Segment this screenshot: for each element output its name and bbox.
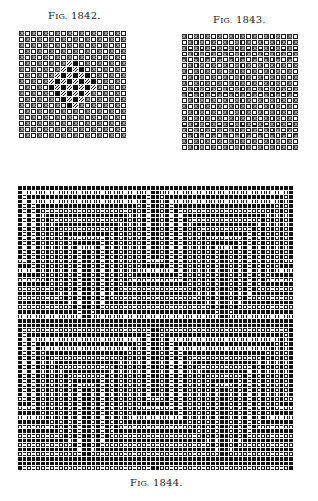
weave-cell bbox=[220, 232, 224, 236]
weave-cell bbox=[31, 127, 36, 132]
weave-cell bbox=[50, 310, 54, 314]
weave-cell bbox=[252, 351, 256, 355]
weave-cell bbox=[243, 448, 247, 452]
weave-cell bbox=[105, 186, 109, 190]
weave-cell bbox=[160, 315, 164, 319]
weave-cell bbox=[264, 92, 269, 97]
weave-cell bbox=[287, 133, 292, 138]
weave-cell bbox=[276, 81, 281, 86]
weave-cell bbox=[87, 411, 91, 415]
weave-cell bbox=[156, 420, 160, 424]
weave-cell bbox=[124, 439, 128, 443]
weave-cell bbox=[87, 416, 91, 420]
weave-cell bbox=[87, 452, 91, 456]
weave-cell bbox=[257, 462, 261, 466]
weave-cell bbox=[92, 434, 96, 438]
weave-cell bbox=[37, 61, 42, 66]
weave-cell bbox=[37, 97, 42, 102]
weave-cell bbox=[105, 305, 109, 309]
weave-cell bbox=[41, 342, 45, 346]
weave-cell bbox=[92, 347, 96, 351]
weave-cell bbox=[239, 407, 243, 411]
weave-cell bbox=[73, 218, 77, 222]
weave-cell bbox=[82, 310, 86, 314]
weave-cell bbox=[261, 200, 265, 204]
weave-cell bbox=[46, 434, 50, 438]
weave-cell bbox=[46, 273, 50, 277]
weave-cell bbox=[170, 278, 174, 282]
weave-cell bbox=[114, 457, 118, 461]
weave-cell bbox=[78, 237, 82, 241]
weave-cell bbox=[87, 250, 91, 254]
weave-cell bbox=[96, 319, 100, 323]
weave-cell bbox=[110, 241, 114, 245]
weave-cell bbox=[202, 425, 206, 429]
weave-cell bbox=[197, 439, 201, 443]
weave-cell bbox=[170, 361, 174, 365]
weave-cell bbox=[257, 434, 261, 438]
weave-cell bbox=[271, 237, 275, 241]
weave-cell bbox=[69, 241, 73, 245]
weave-cell bbox=[240, 40, 245, 45]
weave-cell bbox=[271, 260, 275, 264]
weave-cell bbox=[284, 328, 288, 332]
weave-cell bbox=[119, 462, 123, 466]
weave-cell bbox=[165, 282, 169, 286]
weave-cell bbox=[23, 402, 27, 406]
weave-cell bbox=[23, 379, 27, 383]
weave-cell bbox=[27, 393, 31, 397]
weave-cell bbox=[46, 324, 50, 328]
weave-cell bbox=[23, 448, 27, 452]
weave-cell bbox=[179, 204, 183, 208]
weave-cell bbox=[128, 425, 132, 429]
caption-smallcaps: IG. bbox=[137, 479, 149, 488]
weave-cell bbox=[82, 370, 86, 374]
weave-cell bbox=[202, 191, 206, 195]
weave-cell bbox=[239, 250, 243, 254]
weave-cell bbox=[188, 393, 192, 397]
weave-cell bbox=[211, 218, 215, 222]
weave-cell bbox=[92, 273, 96, 277]
weave-cell bbox=[216, 370, 220, 374]
weave-cell bbox=[289, 287, 293, 291]
weave-cell bbox=[229, 466, 233, 470]
weave-cell bbox=[284, 351, 288, 355]
weave-cell bbox=[137, 232, 141, 236]
weave-cell bbox=[275, 342, 279, 346]
weave-cell bbox=[248, 443, 252, 447]
weave-cell bbox=[229, 351, 233, 355]
weave-cell bbox=[91, 133, 96, 138]
weave-cell bbox=[206, 425, 210, 429]
weave-cell bbox=[200, 57, 205, 62]
weave-cell bbox=[114, 319, 118, 323]
weave-cell bbox=[248, 200, 252, 204]
weave-cell bbox=[193, 397, 197, 401]
weave-cell bbox=[248, 356, 252, 360]
weave-cell bbox=[289, 232, 293, 236]
weave-cell bbox=[284, 250, 288, 254]
weave-cell bbox=[110, 407, 114, 411]
weave-cell bbox=[271, 301, 275, 305]
weave-cell bbox=[193, 214, 197, 218]
weave-cell bbox=[188, 365, 192, 369]
weave-cell bbox=[197, 315, 201, 319]
weave-cell bbox=[55, 73, 60, 78]
weave-cell bbox=[36, 457, 40, 461]
weave-cell bbox=[124, 420, 128, 424]
weave-cell bbox=[92, 223, 96, 227]
weave-cell bbox=[87, 218, 91, 222]
weave-cell bbox=[23, 223, 27, 227]
weave-cell bbox=[183, 443, 187, 447]
weave-cell bbox=[18, 466, 22, 470]
weave-cell bbox=[78, 443, 82, 447]
weave-cell bbox=[281, 104, 286, 109]
weave-cell bbox=[96, 214, 100, 218]
weave-cell bbox=[275, 246, 279, 250]
weave-cell bbox=[234, 388, 238, 392]
weave-cell bbox=[234, 218, 238, 222]
weave-cell bbox=[261, 315, 265, 319]
weave-cell bbox=[73, 388, 77, 392]
weave-cell bbox=[27, 223, 31, 227]
weave-cell bbox=[67, 133, 72, 138]
weave-cell bbox=[284, 379, 288, 383]
